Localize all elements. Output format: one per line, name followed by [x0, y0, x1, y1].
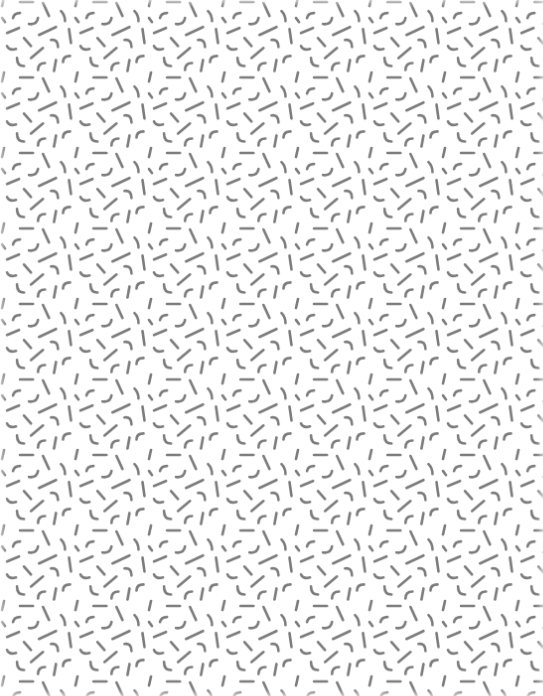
- pattern-fill: [0, 0, 543, 696]
- squiggle-pattern-background: [0, 0, 543, 696]
